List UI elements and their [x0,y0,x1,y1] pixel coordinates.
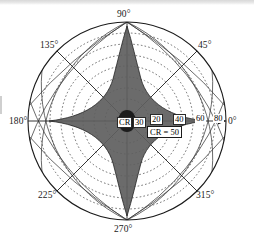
figure-canvas: 90° 45° 0° 315° 270° 225° 180° 135° CR 3… [0,0,254,247]
angle-label-180: 180° [9,116,27,126]
angle-label-270: 270° [114,224,132,234]
radial-tick-80: 80 [213,114,224,123]
radial-tick-20: 20 [150,114,163,125]
radial-tick-60: 60 [195,114,206,123]
angle-label-0: 0° [228,116,237,126]
angle-label-225: 225° [38,190,56,200]
angle-label-45: 45° [198,40,212,50]
angle-label-90: 90° [117,9,131,19]
radial-tick-40: 40 [173,114,186,125]
angle-label-135: 135° [40,40,58,50]
cr-value-annotation: CR = 50 [147,126,182,138]
radial-tick-30: 30 [133,117,146,128]
radial-axis-label-cr: CR [117,117,132,128]
angle-label-315: 315° [196,190,214,200]
